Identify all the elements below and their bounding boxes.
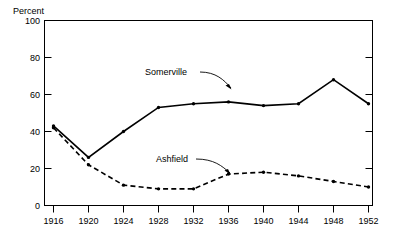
chart-canvas: Percent 100 80 60 40 20 0 bbox=[0, 0, 395, 238]
x-tick-label: 1940 bbox=[253, 216, 273, 226]
data-point bbox=[297, 102, 300, 105]
data-point bbox=[262, 104, 265, 107]
y-axis-title: Percent bbox=[13, 6, 45, 16]
y-tick-label: 20 bbox=[30, 164, 40, 174]
data-point bbox=[122, 130, 125, 133]
data-point bbox=[227, 100, 230, 103]
chart-background bbox=[0, 0, 395, 238]
x-tick-label: 1944 bbox=[288, 216, 308, 226]
x-tick-label: 1952 bbox=[358, 216, 378, 226]
data-point bbox=[367, 185, 370, 188]
x-tick-label: 1948 bbox=[323, 216, 343, 226]
x-tick-label: 1924 bbox=[113, 216, 133, 226]
y-tick-label: 80 bbox=[30, 53, 40, 63]
data-point bbox=[332, 78, 335, 81]
data-point bbox=[367, 102, 370, 105]
x-tick-label: 1932 bbox=[183, 216, 203, 226]
data-point bbox=[87, 163, 90, 166]
y-tick-label: 60 bbox=[30, 90, 40, 100]
data-point bbox=[262, 171, 265, 174]
x-tick-label: 1936 bbox=[218, 216, 238, 226]
data-point bbox=[192, 102, 195, 105]
x-tick-label: 1916 bbox=[43, 216, 63, 226]
data-point bbox=[122, 183, 125, 186]
x-tick-label: 1920 bbox=[78, 216, 98, 226]
annotation-label: Somerville bbox=[145, 67, 187, 77]
data-point bbox=[87, 156, 90, 159]
data-point bbox=[52, 126, 55, 129]
x-tick-label: 1928 bbox=[148, 216, 168, 226]
y-tick-label: 100 bbox=[25, 16, 40, 26]
line-chart: Percent 100 80 60 40 20 0 bbox=[0, 0, 395, 238]
data-point bbox=[157, 187, 160, 190]
annotation-label: Ashfield bbox=[156, 154, 188, 164]
data-point bbox=[192, 187, 195, 190]
y-tick-label: 40 bbox=[30, 127, 40, 137]
data-point bbox=[297, 174, 300, 177]
data-point bbox=[157, 106, 160, 109]
data-point bbox=[332, 180, 335, 183]
y-tick-label: 0 bbox=[35, 201, 40, 211]
